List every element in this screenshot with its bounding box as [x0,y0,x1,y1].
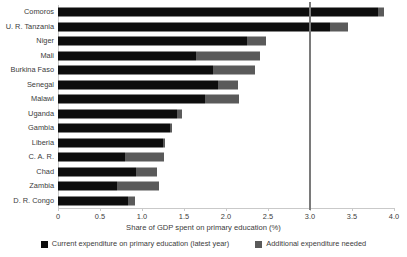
x-axis-tick-mark [352,208,353,211]
bar-row [58,34,394,49]
bar-row [58,20,394,35]
bar-segment-current [58,51,196,60]
stacked-bar [58,66,255,75]
bar-row [58,49,394,64]
y-axis-tick-label: C. A. R. [0,153,54,161]
bar-segment-additional [378,8,384,17]
y-axis-tick-label: Gambia [0,124,54,132]
bar-row [58,136,394,151]
stacked-bar [58,182,159,191]
y-axis-tick-label: Zambia [0,182,54,190]
bar-segment-additional [196,51,260,60]
y-axis-tick-label: Burkina Faso [0,66,54,74]
bar-segment-additional [218,80,238,89]
stacked-bar [58,95,239,104]
x-axis-tick-label: 2.5 [263,212,273,221]
y-axis-label-group: ComorosU. R. TanzaniaNigerMaliBurkina Fa… [0,5,54,208]
x-axis-tick-mark [394,208,395,211]
x-axis-title: Share of GDP spent on primary education … [0,223,407,232]
stacked-bar [58,196,135,205]
stacked-bar [58,51,260,60]
bar-segment-current [58,8,378,17]
bar-row [58,150,394,165]
x-axis-tick-mark [226,208,227,211]
bar-segment-additional [170,124,173,133]
bar-segment-additional [213,66,254,75]
y-axis-tick-label: Liberia [0,139,54,147]
stacked-bar [58,138,165,147]
x-axis-tick-label: 1.0 [137,212,147,221]
plot-area [58,5,394,208]
bar-row [58,63,394,78]
x-axis-tick-label: 0 [56,212,60,221]
y-axis-tick-label: U. R. Tanzania [0,23,54,31]
bar-segment-current [58,22,330,31]
stacked-bar [58,22,348,31]
stacked-bar [58,124,172,133]
bar-segment-additional [205,95,239,104]
chart-container: ComorosU. R. TanzaniaNigerMaliBurkina Fa… [0,0,407,257]
bar-segment-additional [247,37,266,46]
bar-row [58,121,394,136]
bar-row [58,78,394,93]
y-axis-tick-label: Senegal [0,81,54,89]
x-axis-tick-mark [100,208,101,211]
bar-segment-additional [163,138,165,147]
bar-segment-current [58,95,205,104]
reference-line-3-percent [309,2,311,210]
legend-label: Current expenditure on primary education… [52,240,229,248]
chart-legend: Current expenditure on primary education… [0,240,407,248]
y-axis-tick-label: Mali [0,52,54,60]
bar-segment-current [58,138,163,147]
x-axis-tick-label: 2.0 [221,212,231,221]
stacked-bar [58,37,266,46]
bar-segment-current [58,124,170,133]
bar-segment-current [58,167,136,176]
x-axis-tick-label: 3.0 [305,212,315,221]
bar-segment-additional [117,182,159,191]
x-axis-tick-mark [142,208,143,211]
bar-segment-current [58,109,177,118]
legend-entry[interactable]: Additional expenditure needed [255,240,366,248]
legend-entry[interactable]: Current expenditure on primary education… [41,240,229,248]
bar-segment-current [58,66,213,75]
bar-segment-current [58,196,128,205]
stacked-bar [58,8,384,17]
stacked-bar [58,167,157,176]
bar-segment-additional [136,167,157,176]
bar-row [58,92,394,107]
bar-row [58,107,394,122]
y-axis-tick-label: Malawi [0,95,54,103]
y-axis-tick-label: D. R. Congo [0,197,54,205]
stacked-bar [58,109,182,118]
x-axis-tick-mark [184,208,185,211]
x-axis-tick-mark [268,208,269,211]
bar-segment-additional [177,109,182,118]
legend-swatch-icon [41,241,48,248]
y-axis-tick-label: Comoros [0,8,54,16]
legend-label: Additional expenditure needed [266,240,366,248]
bar-segment-current [58,80,218,89]
y-axis-tick-label: Niger [0,37,54,45]
x-axis-tick-label: 3.5 [347,212,357,221]
stacked-bar [58,153,164,162]
x-axis-tick-label: 0.5 [95,212,105,221]
x-axis-tick-label: 1.5 [179,212,189,221]
bar-row [58,179,394,194]
stacked-bar [58,80,238,89]
bar-segment-current [58,153,125,162]
x-axis-tick-mark [58,208,59,211]
bar-segment-additional [125,153,164,162]
bar-segment-current [58,37,247,46]
bar-row [58,165,394,180]
bar-segment-current [58,182,117,191]
y-axis-tick-label: Uganda [0,110,54,118]
y-axis-tick-label: Chad [0,168,54,176]
bar-row [58,5,394,20]
bar-segment-additional [128,196,136,205]
bar-segment-additional [330,22,348,31]
x-axis-tick-label: 4.0 [389,212,399,221]
bar-row [58,194,394,209]
legend-swatch-icon [255,241,262,248]
